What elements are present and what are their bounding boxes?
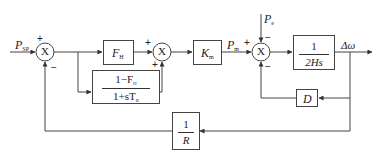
signal-label-pm: Pm <box>227 39 239 52</box>
block-droop-fraction: 1 R <box>178 119 194 146</box>
sum3-sign-top: − <box>265 33 271 43</box>
sum1-symbol: X <box>41 46 49 57</box>
block-droop: 1 R <box>172 112 200 150</box>
sum2-sign-left: + <box>145 38 151 48</box>
line-leadlag-to-sum2 <box>160 62 162 92</box>
block-km-label: Km <box>201 47 214 60</box>
block-damping: D <box>296 89 318 107</box>
sum3-sign-bottom: − <box>265 62 271 72</box>
block-leadlag-fraction: 1−FH 1+sTR <box>102 74 150 103</box>
sum1-sign-bottom: − <box>51 63 57 73</box>
input-label-psp: PSP <box>15 39 29 52</box>
block-inertia: 1 2Hs <box>293 35 335 70</box>
sum3-symbol: X <box>257 46 265 57</box>
line-branch-to-leadlag <box>78 52 91 92</box>
sum1-sign-top: + <box>37 34 43 44</box>
sum2-sign-bottom: + <box>152 60 158 70</box>
sum2-symbol: X <box>158 46 166 57</box>
block-fh: FH <box>103 40 134 65</box>
block-damping-label: D <box>303 93 312 105</box>
output-label-delta-omega: Δω <box>341 40 355 51</box>
block-km: Km <box>193 40 222 65</box>
block-fh-label: FH <box>112 47 124 60</box>
sum3-sign-left: + <box>244 38 250 48</box>
block-inertia-fraction: 1 2Hs <box>299 41 329 68</box>
block-leadlag: 1−FH 1+sTR <box>92 70 160 104</box>
input-label-pe: Pe <box>264 13 274 26</box>
